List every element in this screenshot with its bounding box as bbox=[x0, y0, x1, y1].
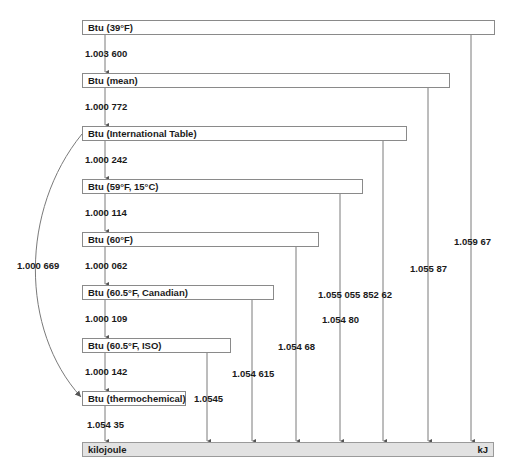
chain-factor-label: 1.000 109 bbox=[85, 313, 127, 324]
chain-factor-label: 1.000 062 bbox=[85, 260, 127, 271]
target-label: kilojoule bbox=[88, 444, 127, 455]
unit-box-btu-thermochemical: Btu (thermochemical) bbox=[82, 391, 186, 406]
to-kj-label-iso: 1.0545 bbox=[194, 393, 223, 404]
chain-factor-label: 1.000 114 bbox=[85, 207, 127, 218]
chain-factor-label: 1.000 772 bbox=[85, 101, 127, 112]
unit-box-btu-39f: Btu (39°F) bbox=[82, 20, 495, 35]
thermochemical-to-kj-label: 1.054 35 bbox=[87, 419, 124, 430]
btu-conversion-diagram: Btu (39°F) Btu (mean) Btu (International… bbox=[0, 0, 510, 471]
to-kj-label-international-table: 1.055 055 852 62 bbox=[318, 289, 392, 300]
to-kj-label-canadian: 1.054 615 bbox=[232, 368, 274, 379]
unit-box-btu-59f: Btu (59°F, 15°C) bbox=[82, 179, 363, 194]
target-unit: kJ bbox=[477, 443, 488, 456]
to-kj-label-mean: 1.055 87 bbox=[410, 263, 447, 274]
unit-box-btu-canadian: Btu (60.5°F, Canadian) bbox=[82, 285, 274, 300]
curve-factor-label: 1.000 669 bbox=[17, 260, 59, 271]
target-box-kilojoule: kilojoule kJ bbox=[82, 442, 494, 457]
unit-box-btu-mean: Btu (mean) bbox=[82, 73, 450, 88]
chain-factor-label: 1.000 142 bbox=[85, 366, 127, 377]
unit-box-btu-iso: Btu (60.5°F, ISO) bbox=[82, 338, 231, 353]
to-kj-label-59f: 1.054 80 bbox=[322, 314, 359, 325]
to-kj-label-60f: 1.054 68 bbox=[278, 341, 315, 352]
unit-box-btu-60f: Btu (60°F) bbox=[82, 232, 319, 247]
chain-factor-label: 1.003 600 bbox=[85, 48, 127, 59]
unit-box-btu-international-table: Btu (International Table) bbox=[82, 126, 407, 141]
to-kj-label-39f: 1.059 67 bbox=[454, 236, 491, 247]
chain-factor-label: 1.000 242 bbox=[85, 154, 127, 165]
